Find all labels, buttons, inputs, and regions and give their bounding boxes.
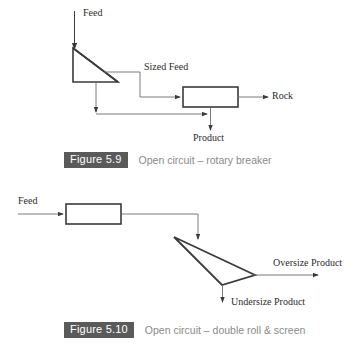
diagram-page: Feed Sized Feed Rock Product Figure 5.9 … [0,0,359,348]
caption-figure-5-9: Figure 5.9 Open circuit – rotary breaker [64,152,272,168]
figure-number-badge-59: Figure 5.9 [64,152,128,168]
figure-caption-text-59: Open circuit – rotary breaker [139,155,272,166]
double-roll-box [66,204,121,224]
figure-5-10-drawing [18,204,318,302]
label-rock: Rock [272,91,293,101]
label-oversize-product: Oversize Product [273,258,342,268]
label-sized-feed: Sized Feed [144,62,188,72]
figure-number-badge-510: Figure 5.10 [64,322,134,338]
crusher-to-screen-path [121,214,198,239]
label-feed-fig510: Feed [18,196,37,206]
flowsheet-drawing [0,0,359,348]
label-feed-fig59: Feed [83,8,102,18]
rotary-breaker-box [183,87,238,107]
sized-feed-path [104,72,180,97]
label-undersize-product: Undersize Product [231,297,305,307]
label-product: Product [193,133,224,143]
caption-figure-5-10: Figure 5.10 Open circuit – double roll &… [64,322,305,338]
screen-triangle [174,237,255,285]
figure-caption-text-510: Open circuit – double roll & screen [145,325,306,336]
